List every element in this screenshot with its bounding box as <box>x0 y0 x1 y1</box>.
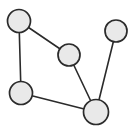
graph-figure <box>0 0 138 129</box>
graph-node <box>58 44 80 66</box>
graph-node <box>105 20 127 42</box>
graph-node <box>10 82 33 105</box>
graph-node <box>8 10 31 33</box>
node-layer <box>8 10 128 125</box>
graph-node <box>84 100 109 125</box>
graph-canvas <box>0 0 138 129</box>
